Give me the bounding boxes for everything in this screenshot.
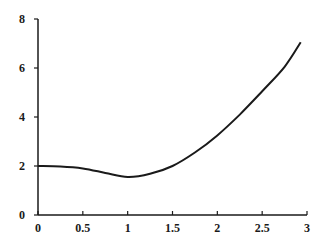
axis-ticks: 0246800.511.522.53 [19,12,310,235]
plot-series [38,42,301,177]
x-tick-label: 2 [214,221,220,235]
line-chart: 0246800.511.522.53 [0,0,326,239]
x-tick-label: 1.5 [165,221,180,235]
y-tick-label: 0 [19,208,25,222]
x-tick-label: 0 [35,221,41,235]
curve-line [38,42,301,177]
axes [38,19,307,215]
x-tick-label: 3 [304,221,310,235]
y-tick-label: 4 [19,110,25,124]
x-tick-label: 2.5 [255,221,270,235]
y-tick-label: 6 [19,61,25,75]
y-tick-label: 2 [19,159,25,173]
x-tick-label: 0.5 [75,221,90,235]
y-tick-label: 8 [19,12,25,26]
x-tick-label: 1 [125,221,131,235]
